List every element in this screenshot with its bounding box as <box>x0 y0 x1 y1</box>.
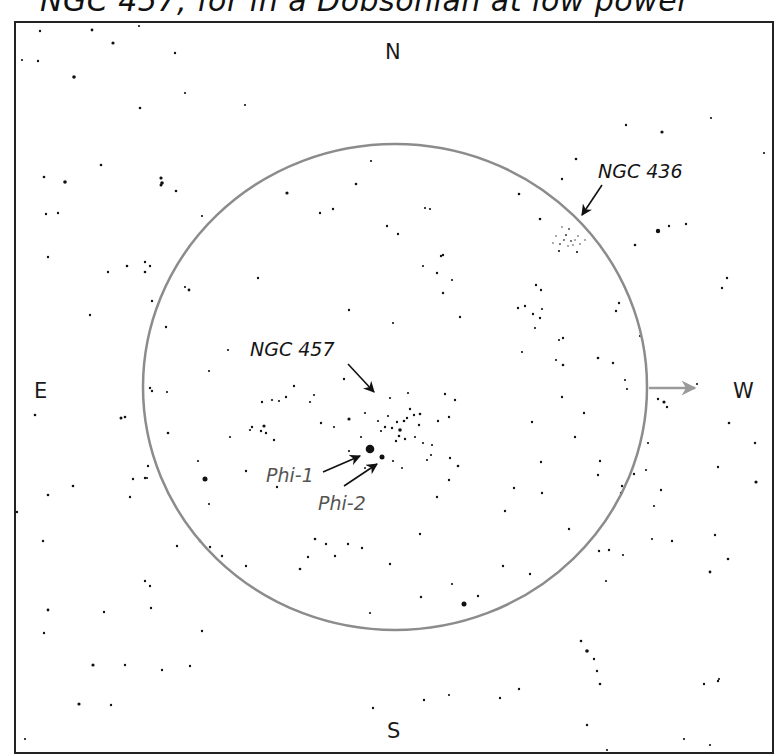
star <box>624 379 626 381</box>
star <box>709 744 711 746</box>
star <box>150 607 152 609</box>
star <box>436 496 438 498</box>
star <box>763 152 765 154</box>
star <box>307 556 309 558</box>
star <box>203 477 208 482</box>
star <box>597 474 599 476</box>
star <box>197 460 199 462</box>
star <box>558 250 560 252</box>
cluster-star <box>555 235 557 237</box>
star <box>364 412 366 414</box>
star <box>245 565 247 567</box>
star <box>347 543 349 545</box>
star <box>540 461 542 463</box>
star <box>449 457 451 459</box>
field-of-view-circle <box>143 144 647 630</box>
star <box>138 25 140 27</box>
star <box>313 394 315 396</box>
star <box>43 632 45 634</box>
star <box>625 124 627 126</box>
star <box>562 364 565 367</box>
star <box>77 702 80 705</box>
star <box>444 393 446 395</box>
star <box>355 183 358 186</box>
star <box>201 630 203 632</box>
star <box>91 663 94 666</box>
star <box>103 611 105 613</box>
finder-chart: N S E W NGC 457 NGC 436 Phi-1 Phi-2 <box>0 0 777 756</box>
star <box>419 413 422 416</box>
star <box>606 749 608 751</box>
star <box>419 533 421 535</box>
star <box>448 416 450 418</box>
star <box>531 421 533 423</box>
star <box>309 401 311 403</box>
star <box>535 284 537 286</box>
star <box>72 485 75 488</box>
star <box>360 436 362 438</box>
star <box>398 435 401 438</box>
star <box>124 664 126 666</box>
star <box>696 383 698 385</box>
star <box>144 477 146 479</box>
star <box>651 538 653 540</box>
star <box>175 190 178 193</box>
compass-south-label: S <box>387 719 400 743</box>
star <box>539 317 541 319</box>
star <box>409 408 411 410</box>
star <box>47 494 50 497</box>
phi1-pointer-arrow <box>323 456 360 472</box>
star <box>612 362 614 364</box>
star <box>361 547 363 549</box>
cluster-star <box>567 245 569 247</box>
star <box>144 271 147 274</box>
star <box>184 286 186 288</box>
star <box>442 254 444 256</box>
star <box>426 459 428 461</box>
star <box>260 430 262 432</box>
cluster-star <box>559 243 561 245</box>
star <box>392 322 394 324</box>
star <box>721 287 723 289</box>
star <box>334 555 336 557</box>
star <box>437 420 439 422</box>
star <box>422 442 424 444</box>
star <box>149 387 151 389</box>
star <box>333 426 335 428</box>
star <box>57 212 59 214</box>
star <box>151 390 153 392</box>
star <box>160 177 163 180</box>
star <box>372 707 374 709</box>
star <box>166 391 168 393</box>
star <box>111 41 114 44</box>
star <box>599 460 601 462</box>
compass-north-label: N <box>385 40 401 64</box>
star <box>539 218 542 221</box>
star <box>562 337 564 339</box>
cluster-star <box>568 228 570 230</box>
star <box>521 351 523 353</box>
star <box>63 180 67 184</box>
star <box>598 550 600 552</box>
star <box>442 292 444 294</box>
star <box>386 225 388 227</box>
star <box>517 307 519 309</box>
star <box>418 424 420 426</box>
star <box>21 59 23 61</box>
star <box>568 528 570 530</box>
star <box>348 309 350 311</box>
star <box>710 117 712 119</box>
star <box>703 683 705 685</box>
star <box>149 585 151 587</box>
cluster-star <box>570 240 572 242</box>
star <box>91 29 94 32</box>
star <box>647 442 649 444</box>
cluster-star <box>584 239 586 241</box>
star <box>685 223 687 225</box>
star <box>160 181 164 185</box>
star <box>144 261 146 263</box>
star <box>47 256 49 258</box>
star <box>278 400 280 402</box>
star <box>271 399 273 401</box>
star <box>448 694 450 696</box>
